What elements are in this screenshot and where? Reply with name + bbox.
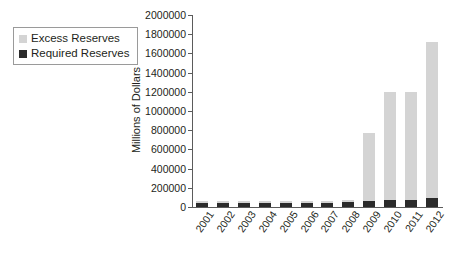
bar-segment — [280, 203, 292, 207]
legend-swatch-required-reserves — [19, 50, 27, 58]
x-tick-label: 2008 — [340, 209, 362, 234]
bar-group — [301, 201, 313, 207]
x-tick-label: 2001 — [194, 209, 216, 234]
bar-group — [196, 201, 208, 207]
x-tick-label: 2005 — [277, 209, 299, 234]
legend-item-required-reserves: Required Reserves — [19, 47, 129, 60]
bar-segment — [363, 133, 375, 201]
bar-group — [217, 201, 229, 207]
bar-segment — [426, 42, 438, 198]
y-tick-label: 1600000 — [145, 48, 186, 59]
bar-group — [363, 133, 375, 207]
bar-segment — [259, 203, 271, 207]
x-axis-labels: 2001200220032004200520062007200820092010… — [192, 209, 442, 253]
y-tick-mark — [188, 207, 192, 208]
bar-segment — [384, 92, 396, 201]
x-tick-label: 2004 — [257, 209, 279, 234]
y-tick-label: 1800000 — [145, 29, 186, 40]
legend-item-excess-reserves: Excess Reserves — [19, 32, 129, 45]
bar-group — [342, 200, 354, 207]
bar-group — [405, 92, 417, 207]
bar-segment — [301, 203, 313, 207]
x-tick-label: 2003 — [236, 209, 258, 234]
plot-area: 0200000400000600000800000100000012000001… — [192, 15, 442, 207]
bar-group — [259, 201, 271, 207]
x-axis-line — [192, 207, 443, 208]
bar-segment — [321, 203, 333, 207]
bar-group — [384, 92, 396, 207]
bar-segment — [405, 92, 417, 200]
x-tick-label: 2009 — [361, 209, 383, 234]
y-axis-title-text: Millions of Dollars — [130, 67, 142, 153]
legend-label-excess-reserves: Excess Reserves — [31, 32, 120, 45]
bar-segment — [384, 200, 396, 207]
x-tick-label: 2012 — [423, 209, 445, 234]
bar-group — [280, 201, 292, 207]
y-tick-label: 600000 — [151, 144, 186, 155]
legend-label-required-reserves: Required Reserves — [31, 47, 129, 60]
legend-swatch-excess-reserves — [19, 35, 27, 43]
reserves-stacked-bar-chart: Excess Reserves Required Reserves Millio… — [0, 0, 461, 255]
bar-segment — [363, 201, 375, 207]
y-tick-label: 400000 — [151, 163, 186, 174]
y-tick-label: 1200000 — [145, 87, 186, 98]
y-tick-label: 1400000 — [145, 67, 186, 78]
bar-group — [426, 42, 438, 207]
x-tick-label: 2011 — [403, 209, 425, 234]
y-tick-label: 0 — [180, 202, 186, 213]
bar-segment — [426, 198, 438, 207]
y-tick-label: 1000000 — [145, 106, 186, 117]
bar-segment — [342, 202, 354, 207]
bar-segment — [238, 203, 250, 207]
bar-segment — [196, 203, 208, 207]
x-tick-label: 2007 — [319, 209, 341, 234]
bar-segment — [405, 200, 417, 207]
y-tick-label: 200000 — [151, 183, 186, 194]
x-tick-label: 2002 — [215, 209, 237, 234]
y-axis-title: Millions of Dollars — [129, 50, 143, 170]
bar-group — [321, 201, 333, 207]
bar-series-container — [192, 15, 442, 207]
bar-segment — [217, 203, 229, 207]
y-tick-label: 800000 — [151, 125, 186, 136]
y-tick-label: 2000000 — [145, 10, 186, 21]
x-tick-label: 2006 — [298, 209, 320, 234]
bar-group — [238, 201, 250, 207]
x-tick-label: 2010 — [382, 209, 404, 234]
chart-legend: Excess Reserves Required Reserves — [13, 27, 138, 65]
